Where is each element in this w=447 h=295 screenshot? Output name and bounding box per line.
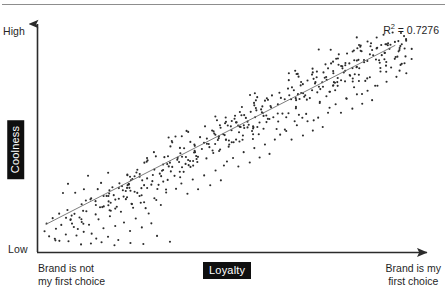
scatter-point (319, 88, 321, 90)
scatter-point (163, 156, 165, 158)
scatter-point (325, 95, 327, 97)
scatter-point (272, 116, 274, 118)
scatter-point (205, 157, 207, 159)
scatter-point (75, 234, 77, 236)
scatter-point (179, 152, 181, 154)
scatter-point (335, 103, 337, 105)
scatter-point (243, 114, 245, 116)
scatter-point (197, 156, 199, 158)
scatter-point (322, 71, 324, 73)
scatter-point (153, 197, 155, 199)
scatter-point (318, 86, 320, 88)
scatter-point (329, 91, 331, 93)
scatter-point (169, 162, 171, 164)
scatter-point (298, 98, 300, 100)
scatter-point (141, 179, 143, 181)
scatter-point (179, 147, 181, 149)
scatter-point (338, 53, 340, 55)
scatter-point (52, 217, 54, 219)
scatter-point (189, 160, 191, 162)
scatter-point (81, 203, 83, 205)
scatter-point (311, 74, 313, 76)
scatter-point (316, 71, 318, 73)
scatter-point (143, 162, 145, 164)
scatter-point (128, 183, 130, 185)
scatter-point (376, 85, 378, 87)
scatter-point (378, 59, 380, 61)
scatter-point (235, 139, 237, 141)
scatter-point (238, 131, 240, 133)
y-axis-title-badge: Coolness (7, 120, 24, 179)
scatter-point (287, 112, 289, 114)
scatter-point (316, 91, 318, 93)
scatter-point (325, 76, 327, 78)
scatter-point (241, 139, 243, 141)
scatter-point (206, 138, 208, 140)
scatter-point (251, 130, 253, 132)
scatter-point (150, 184, 152, 186)
scatter-point (146, 177, 148, 179)
scatter-point (208, 146, 210, 148)
scatter-point (111, 186, 113, 188)
scatter-point (255, 109, 257, 111)
scatter-point (225, 116, 227, 118)
scatter-point (252, 133, 254, 135)
scatter-point (219, 124, 221, 126)
scatter-point (316, 76, 318, 78)
scatter-point (254, 92, 256, 94)
scatter-point (332, 72, 334, 74)
scatter-point (330, 49, 332, 51)
scatter-point (117, 239, 119, 241)
scatter-point (167, 155, 169, 157)
scatter-point (231, 120, 233, 122)
scatter-point (361, 103, 363, 105)
scatter-point (126, 187, 128, 189)
scatter-point (168, 136, 170, 138)
scatter-point (71, 215, 73, 217)
scatter-point (123, 196, 125, 198)
scatter-point (248, 124, 250, 126)
scatter-point (136, 192, 138, 194)
scatter-point (214, 115, 216, 117)
scatter-point (379, 67, 381, 69)
scatter-point (125, 190, 127, 192)
scatter-point (294, 70, 296, 72)
scatter-point (82, 223, 84, 225)
scatter-point (367, 90, 369, 92)
scatter-point (397, 40, 399, 42)
scatter-point (146, 157, 148, 159)
scatter-point (295, 97, 297, 99)
scatter-point (216, 119, 218, 121)
scatter-point (356, 47, 358, 49)
scatter-point (214, 143, 216, 145)
scatter-point (288, 94, 290, 96)
scatter-point (361, 93, 363, 95)
scatter-point (352, 80, 354, 82)
scatter-point (405, 38, 407, 40)
scatter-point (85, 210, 87, 212)
scatter-point (324, 63, 326, 65)
scatter-point (264, 100, 266, 102)
scatter-point (129, 176, 131, 178)
scatter-point (192, 178, 194, 180)
scatter-point (274, 139, 276, 141)
scatter-point (384, 52, 386, 54)
scatter-point (82, 210, 84, 212)
scatter-point (369, 53, 371, 55)
scatter-point (344, 62, 346, 64)
scatter-point (260, 108, 262, 110)
scatter-point (277, 112, 279, 114)
scatter-point (91, 233, 93, 235)
scatter-point (259, 156, 261, 158)
scatter-point (399, 70, 401, 72)
scatter-point (107, 172, 109, 174)
scatter-point (176, 159, 178, 161)
scatter-point (329, 107, 331, 109)
scatter-point (401, 43, 403, 45)
scatter-point (337, 57, 339, 59)
scatter-point (369, 45, 371, 47)
scatter-point (253, 102, 255, 104)
scatter-point (224, 122, 226, 124)
scatter-point (129, 190, 131, 192)
scatter-point (161, 170, 163, 172)
